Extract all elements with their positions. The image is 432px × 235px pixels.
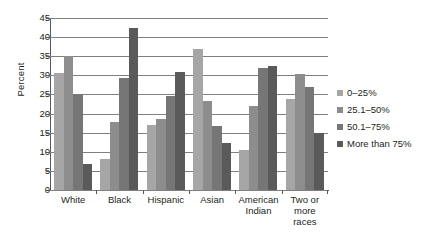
x-axis-label-line: Indian bbox=[235, 205, 281, 216]
y-axis-ticks: 454035302520151050 bbox=[0, 0, 50, 235]
bar-group bbox=[50, 18, 96, 190]
bar bbox=[100, 159, 110, 190]
y-tick-label-30: 30 bbox=[10, 70, 50, 80]
legend-item: 50.1–75% bbox=[337, 118, 432, 135]
bar-group bbox=[96, 18, 142, 190]
bar bbox=[147, 125, 157, 190]
bar-group bbox=[189, 18, 235, 190]
x-axis-label: White bbox=[50, 194, 96, 205]
legend-label: 50.1–75% bbox=[347, 122, 390, 132]
y-tick-label-0: 0 bbox=[10, 185, 50, 195]
bar bbox=[249, 106, 259, 190]
y-tick-label-25: 25 bbox=[10, 89, 50, 99]
legend-swatch-icon bbox=[337, 90, 343, 96]
bar bbox=[212, 126, 222, 190]
y-tick-label-45: 45 bbox=[10, 13, 50, 23]
x-axis-label-line: races bbox=[282, 216, 328, 227]
bar bbox=[73, 94, 83, 190]
y-tick-label-40: 40 bbox=[10, 32, 50, 42]
bar bbox=[258, 68, 268, 190]
bar-group bbox=[235, 18, 281, 190]
x-axis-label: AmericanIndian bbox=[235, 194, 281, 216]
x-axis-label-line: Two or bbox=[282, 194, 328, 205]
bar bbox=[54, 73, 64, 190]
x-axis-label-line: White bbox=[50, 194, 96, 205]
bar bbox=[193, 49, 203, 190]
x-axis-label-line: Black bbox=[96, 194, 142, 205]
legend-label: More than 75% bbox=[347, 139, 411, 149]
y-tick-label-10: 10 bbox=[10, 147, 50, 157]
y-tick-label-15: 15 bbox=[10, 128, 50, 138]
bar bbox=[156, 119, 166, 190]
y-tick-label-5: 5 bbox=[10, 166, 50, 176]
x-axis-label: Black bbox=[96, 194, 142, 205]
legend-item: More than 75% bbox=[337, 135, 432, 152]
bar-group bbox=[282, 18, 328, 190]
bar bbox=[64, 56, 74, 190]
bar bbox=[295, 74, 305, 190]
legend-label: 0–25% bbox=[347, 88, 377, 98]
x-axis-label-line: American bbox=[235, 194, 281, 205]
bar bbox=[203, 101, 213, 190]
chart-legend: 0–25%25.1–50%50.1–75%More than 75% bbox=[337, 84, 432, 152]
x-axis-label: Asian bbox=[189, 194, 235, 205]
x-axis-label: Two ormoreraces bbox=[282, 194, 328, 227]
x-axis-label-line: Hispanic bbox=[143, 194, 189, 205]
bar bbox=[83, 164, 93, 190]
legend-item: 25.1–50% bbox=[337, 101, 432, 118]
x-axis-labels: WhiteBlackHispanicAsianAmericanIndianTwo… bbox=[50, 194, 328, 235]
x-axis-label-line: Asian bbox=[189, 194, 235, 205]
bar bbox=[129, 28, 139, 190]
bar bbox=[119, 78, 129, 190]
bar bbox=[286, 99, 296, 190]
bar bbox=[110, 122, 120, 190]
bar bbox=[239, 150, 249, 190]
bar-chart: Percent 454035302520151050 WhiteBlackHis… bbox=[0, 0, 432, 235]
legend-item: 0–25% bbox=[337, 84, 432, 101]
bar bbox=[268, 66, 278, 190]
bar bbox=[222, 143, 232, 190]
legend-swatch-icon bbox=[337, 124, 343, 130]
plot-area bbox=[50, 18, 328, 190]
x-axis-label: Hispanic bbox=[143, 194, 189, 205]
bar bbox=[166, 96, 176, 190]
bar bbox=[305, 87, 315, 190]
bar bbox=[175, 72, 185, 190]
x-axis-label-line: more bbox=[282, 205, 328, 216]
bars-layer bbox=[50, 18, 328, 190]
bar bbox=[314, 133, 324, 190]
y-tick-label-20: 20 bbox=[10, 109, 50, 119]
legend-label: 25.1–50% bbox=[347, 105, 390, 115]
bar-group bbox=[143, 18, 189, 190]
legend-swatch-icon bbox=[337, 141, 343, 147]
y-tick-label-35: 35 bbox=[10, 51, 50, 61]
legend-swatch-icon bbox=[337, 107, 343, 113]
